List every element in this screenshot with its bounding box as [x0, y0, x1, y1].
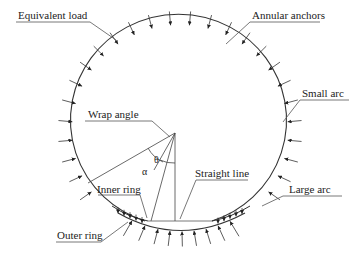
small-arc-leader	[283, 100, 349, 122]
straight-line-leader	[180, 180, 248, 219]
equivalent-load-leader	[16, 22, 116, 40]
alpha-symbol: α	[142, 167, 147, 177]
load-arrows	[58, 11, 301, 246]
straight-line-label: Straight line	[195, 167, 249, 179]
large-arc-label: Large arc	[289, 183, 331, 195]
anchor-ring-diagram	[0, 0, 362, 259]
small-arc-label: Small arc	[302, 87, 344, 99]
wrap-angle-label: Wrap angle	[88, 108, 139, 120]
wrap-angle-leader	[85, 121, 170, 137]
wrap-angle-construction	[88, 133, 175, 221]
annular-anchors-label: Annular anchors	[252, 9, 325, 21]
equivalent-load-label: Equivalent load	[18, 9, 87, 21]
outer-ring-label: Outer ring	[57, 229, 103, 241]
large-arc-leader	[262, 196, 342, 206]
inner-ring-label: Inner ring	[97, 183, 141, 195]
theta-symbol: θ	[154, 155, 159, 165]
